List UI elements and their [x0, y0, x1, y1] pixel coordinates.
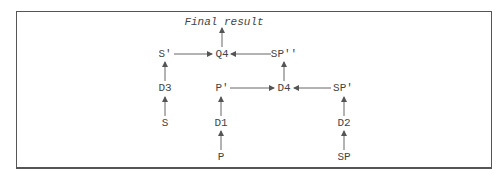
node-q4: Q4 [215, 49, 228, 60]
node-p: P [218, 152, 225, 163]
node-d2: D2 [337, 118, 350, 129]
node-d4: D4 [277, 83, 290, 94]
node-p-prime: P' [215, 83, 228, 94]
node-final-result: Final result [184, 17, 263, 28]
node-d3: D3 [158, 83, 171, 94]
node-sp-double-prime: SP'' [271, 49, 297, 60]
node-s-prime: S' [158, 49, 171, 60]
node-sp: SP [337, 152, 350, 163]
node-s: S [162, 118, 169, 129]
node-d1: D1 [214, 118, 227, 129]
node-sp-prime: SP' [333, 83, 353, 94]
